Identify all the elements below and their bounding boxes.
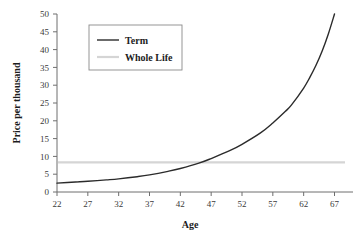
legend-box	[89, 25, 182, 70]
x-tick-label: 27	[83, 199, 93, 209]
y-tick-label: 5	[45, 169, 50, 179]
chart-container: 05101520253035404550 2227323742475257626…	[0, 0, 358, 238]
x-tick-label: 22	[53, 199, 62, 209]
x-tick-label: 32	[114, 199, 123, 209]
y-tick-label: 40	[40, 45, 50, 55]
y-tick-label: 15	[40, 134, 50, 144]
y-axis-title: Price per thousand	[11, 62, 22, 143]
x-tick-label: 52	[238, 199, 247, 209]
y-tick-label: 20	[40, 116, 50, 126]
line-chart: 05101520253035404550 2227323742475257626…	[0, 0, 358, 238]
y-tick-label: 45	[40, 27, 50, 37]
y-tick-label: 25	[40, 98, 50, 108]
x-tick-label: 57	[268, 199, 278, 209]
y-tick-label: 50	[40, 9, 50, 19]
y-tick-label: 0	[45, 187, 50, 197]
y-tick-label: 35	[40, 63, 50, 73]
x-tick-label: 67	[330, 199, 340, 209]
y-tick-label: 10	[40, 152, 50, 162]
y-tick-label: 30	[40, 80, 50, 90]
legend: Term Whole Life	[89, 25, 182, 70]
legend-label-whole-life: Whole Life	[125, 52, 173, 63]
x-tick-label: 62	[299, 199, 308, 209]
x-tick-label: 42	[176, 199, 185, 209]
x-axis-title: Age	[182, 219, 199, 230]
legend-label-term: Term	[125, 35, 149, 46]
x-tick-label: 47	[207, 199, 217, 209]
x-tick-label: 37	[145, 199, 155, 209]
